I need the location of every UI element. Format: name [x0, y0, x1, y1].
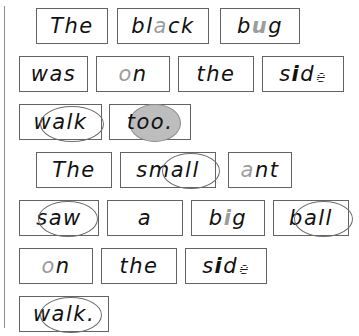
word-text: side	[202, 256, 250, 277]
word-text: walk	[33, 112, 87, 133]
hatched-letter: e	[239, 262, 250, 277]
word-row-6: on the side	[0, 246, 359, 286]
highlighted-letter: i	[292, 62, 301, 86]
word-card-ball[interactable]: ball	[273, 200, 349, 236]
word-text: was	[31, 64, 77, 85]
word-row-1: The black bug	[0, 6, 359, 46]
word-card-the-2[interactable]: the	[178, 56, 254, 92]
word-card-was[interactable]: was	[19, 56, 88, 92]
word-text: saw	[36, 208, 82, 229]
word-card-bug[interactable]: bug	[220, 8, 300, 44]
word-text: small	[136, 160, 199, 181]
highlighted-letter: i	[215, 254, 224, 278]
word-row-7: walk.	[0, 294, 359, 334]
circled-letters: all	[171, 158, 200, 182]
word-text: the	[120, 256, 159, 277]
word-text: bug	[237, 16, 283, 37]
word-card-walk-2[interactable]: walk.	[19, 296, 109, 332]
word-card-small[interactable]: small	[120, 152, 216, 188]
word-text: on	[41, 256, 70, 277]
word-text: The	[52, 160, 96, 181]
word-card-a[interactable]: a	[107, 200, 183, 236]
word-row-4: The small ant	[0, 150, 359, 190]
word-card-the-3[interactable]: The	[36, 152, 112, 188]
word-text: black	[131, 16, 194, 37]
word-text: ball	[289, 208, 333, 229]
word-text: The	[50, 16, 94, 37]
circled-letters: aw	[49, 206, 82, 230]
worksheet-sheet: The black bug was on the side	[0, 0, 359, 336]
word-text: ant	[241, 160, 280, 181]
word-row-3: walk too.	[0, 102, 359, 142]
word-card-on-1[interactable]: on	[96, 56, 170, 92]
word-card-big[interactable]: big	[191, 200, 265, 236]
word-card-ant[interactable]: ant	[228, 152, 292, 188]
word-text: big	[209, 208, 247, 229]
word-card-the-4[interactable]: the	[101, 248, 177, 284]
word-text: side	[279, 64, 327, 85]
word-card-on-2[interactable]: on	[19, 248, 93, 284]
word-card-black[interactable]: black	[117, 8, 209, 44]
highlighted-letter: u	[252, 14, 268, 38]
highlighted-letter: a	[154, 14, 168, 38]
highlighted-letter: a	[241, 158, 255, 182]
word-card-side-2[interactable]: side	[185, 248, 267, 284]
word-card-too[interactable]: too.	[109, 104, 191, 140]
circled-letters: oo	[136, 110, 165, 134]
word-text: on	[118, 64, 147, 85]
word-card-side-1[interactable]: side	[262, 56, 344, 92]
word-text: the	[197, 64, 236, 85]
word-text: walk.	[33, 304, 95, 325]
circled-letters: all	[304, 206, 333, 230]
circled-letters: alk	[52, 302, 87, 326]
highlighted-letter: o	[41, 254, 55, 278]
word-card-walk-1[interactable]: walk	[19, 104, 102, 140]
word-row-5: saw a big ball	[0, 198, 359, 238]
word-card-the-1[interactable]: The	[36, 8, 108, 44]
circled-letters: alk	[52, 110, 87, 134]
word-text: a	[138, 208, 152, 229]
word-text: too.	[127, 112, 174, 133]
word-card-saw[interactable]: saw	[19, 200, 99, 236]
word-row-2: was on the side	[0, 54, 359, 94]
hatched-letter: e	[316, 70, 327, 85]
highlighted-letter: o	[118, 62, 132, 86]
